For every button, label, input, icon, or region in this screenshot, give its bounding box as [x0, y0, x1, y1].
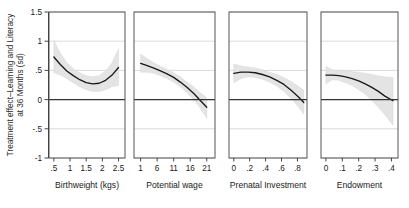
x-tick-label: 2.5 [113, 164, 125, 173]
x-tick-label: .3 [372, 164, 379, 173]
x-tick-label: 1 [138, 164, 143, 173]
x-tick-label: 1 [68, 164, 73, 173]
x-tick-label: 16 [186, 164, 196, 173]
figure-container: Treatment effect–Learning and Literacyat… [0, 0, 409, 208]
y-tick-label: -1 [35, 154, 43, 163]
y-tick-label: .5 [35, 66, 42, 75]
x-tick-label: 0 [231, 164, 236, 173]
chart-svg: Treatment effect–Learning and Literacyat… [0, 0, 409, 208]
x-tick-label: .4 [388, 164, 395, 173]
x-tick-label: .2 [355, 164, 362, 173]
panel-3: 0.2.4.6.8Prenatal Investment [229, 12, 307, 190]
x-axis-title: Birthweight (kgs) [55, 180, 119, 190]
y-axis-label: Treatment effect–Learning and Literacyat… [6, 13, 25, 156]
confidence-band [141, 54, 207, 118]
y-tick-label: 1.5 [31, 8, 43, 17]
x-tick-group: 16111621 [138, 158, 211, 173]
x-tick-label: 1.5 [80, 164, 92, 173]
x-tick-group: .511.522.5 [50, 158, 124, 173]
x-tick-group: 0.1.2.3.4 [324, 158, 396, 173]
x-axis-title: Endowment [337, 180, 383, 190]
panel-2: 16111621Potential wage [134, 12, 215, 190]
x-tick-label: 0 [324, 164, 329, 173]
x-tick-label: 11 [169, 164, 178, 173]
x-tick-label: 21 [202, 164, 212, 173]
confidence-band [54, 41, 119, 92]
y-tick-label: 1 [37, 37, 42, 46]
x-axis-title: Potential wage [146, 180, 203, 190]
x-tick-label: .5 [50, 164, 57, 173]
y-axis-label-line2: at 36 Months (sd) [16, 53, 25, 117]
panel-frame [134, 12, 215, 158]
y-tick-label: -.5 [32, 125, 42, 134]
x-tick-label: 6 [155, 164, 160, 173]
x-axis-title: Prenatal Investment [230, 180, 307, 190]
y-axis-label-line1: Treatment effect–Learning and Literacy [6, 13, 15, 156]
x-tick-group: 0.2.4.6.8 [231, 158, 301, 173]
gridlines [134, 12, 215, 158]
x-tick-label: .8 [294, 164, 301, 173]
x-tick-label: .6 [278, 164, 285, 173]
x-tick-label: .1 [339, 164, 346, 173]
panel-1: .511.522.5Birthweight (kgs) [49, 12, 125, 190]
y-tick-group: 1.51.50-.5-1 [31, 8, 49, 163]
x-tick-label: .2 [246, 164, 253, 173]
y-tick-label: 0 [37, 96, 42, 105]
x-tick-label: .4 [262, 164, 269, 173]
x-tick-label: 2 [100, 164, 105, 173]
panel-4: 0.1.2.3.4Endowment [321, 12, 398, 190]
